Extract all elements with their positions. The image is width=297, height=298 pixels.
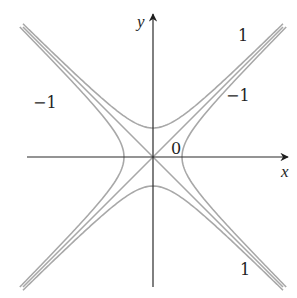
level-label-origin: 0 [171,139,181,158]
level-label-left: −1 [33,93,57,112]
y-axis-label: y [135,12,145,31]
level-label-right: −1 [226,86,250,105]
contour-plot: y x 1 −1 −1 0 1 [0,0,297,298]
level-label-lower-right: 1 [240,260,250,279]
level-label-upper-right: 1 [238,26,248,45]
x-axis-label: x [280,162,289,181]
